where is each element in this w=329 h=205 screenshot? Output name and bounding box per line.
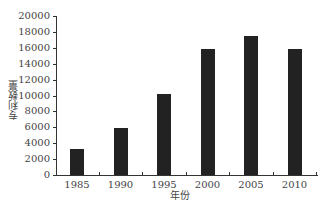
y-tick-label: 18000 [0,26,50,37]
y-tick [53,127,56,128]
y-axis [56,16,57,175]
y-tick-label: 16000 [0,42,50,53]
y-tick [53,16,56,17]
x-tick [229,172,230,175]
y-tick [53,80,56,81]
bar [288,49,302,175]
x-tick [186,172,187,175]
y-tick [53,64,56,65]
x-axis [56,175,318,176]
bar-chart: 专利数量 年份 02000400060008000100001200014000… [0,0,329,205]
y-tick-label: 10000 [0,90,50,101]
x-tick-label: 1990 [101,179,141,190]
x-tick-label: 1995 [144,179,184,190]
y-tick [53,96,56,97]
y-tick [53,159,56,160]
x-tick-label: 1985 [57,179,97,190]
x-tick-label: 2000 [188,179,228,190]
bar [114,128,128,175]
y-tick [53,32,56,33]
x-tick [273,172,274,175]
y-tick-label: 8000 [0,105,50,116]
y-tick-label: 4000 [0,137,50,148]
y-tick [53,143,56,144]
bar [70,149,84,175]
x-tick [316,172,317,175]
y-tick [53,175,56,176]
bar [157,94,171,175]
y-tick-label: 2000 [0,153,50,164]
bar [201,49,215,175]
x-tick-label: 2005 [231,179,271,190]
y-tick-label: 14000 [0,58,50,69]
bar [244,36,258,175]
y-tick-label: 20000 [0,10,50,21]
y-tick-label: 12000 [0,74,50,85]
y-tick [53,111,56,112]
y-tick-label: 0 [0,169,50,180]
x-tick [142,172,143,175]
x-tick [99,172,100,175]
x-tick-label: 2010 [275,179,315,190]
y-tick-label: 6000 [0,121,50,132]
y-tick [53,48,56,49]
